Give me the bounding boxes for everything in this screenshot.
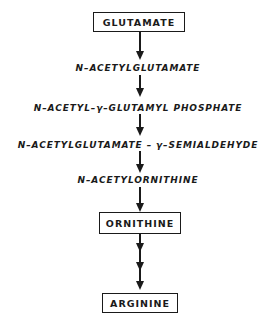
arrowhead-icon [136,203,144,212]
node-arginine: ARGININE [102,293,178,313]
node-n-acetylornithine: N–ACETYLORNITHINE [0,175,276,185]
arrow-to-n-acetyl-glutamyl-phosphate [139,75,141,89]
node-n-acetylglutamate: N–ACETYLGLUTAMATE [0,63,276,73]
arrowhead-icon [136,127,144,136]
arrowhead-icon [136,262,144,271]
arrow-to-n-acetylornithine [139,151,141,165]
arrowhead-icon [136,164,144,173]
node-ornithine: ORNITHINE [99,212,181,234]
arrow-to-n-acetylglutamate-semialdehyde [139,114,141,128]
arrowhead-icon [136,243,144,252]
arrow-glutamate-to-n-acetylglutamate [139,32,141,52]
arrowhead-icon [136,88,144,97]
arrow-ornithine-to-arginine [139,234,141,284]
arrowhead-icon [136,51,144,60]
node-n-acetyl-glutamyl-phosphate: N–ACETYL–γ–GLUTAMYL PHOSPHATE [0,103,276,113]
arrow-to-ornithine [139,187,141,204]
node-glutamate: GLUTAMATE [93,12,185,32]
node-n-acetylglutamate-semialdehyde: N–ACETYLGLUTAMATE – γ–SEMIALDEHYDE [0,140,276,150]
arrowhead-icon [136,281,144,290]
